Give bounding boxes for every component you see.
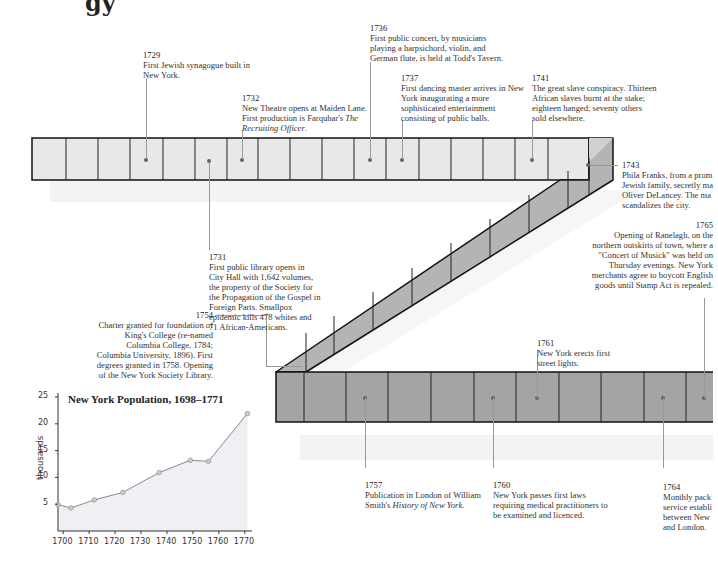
y-tick-label: 25 (38, 391, 48, 400)
x-tick-label: 1760 (208, 537, 228, 546)
x-tick-label: 1730 (130, 537, 150, 546)
x-tick-label: 1750 (182, 537, 202, 546)
y-tick-label: 20 (38, 418, 48, 427)
y-tick-label: 15 (38, 445, 48, 454)
y-tick-label: 5 (43, 498, 48, 507)
x-tick-label: 1720 (104, 537, 124, 546)
y-tick-label: 10 (38, 471, 48, 480)
x-tick-label: 1710 (78, 537, 98, 546)
x-tick-label: 1770 (234, 537, 254, 546)
chart-title: New York Population, 1698–1771 (68, 393, 223, 405)
x-tick-label: 1700 (52, 537, 72, 546)
x-tick-label: 1740 (156, 537, 176, 546)
